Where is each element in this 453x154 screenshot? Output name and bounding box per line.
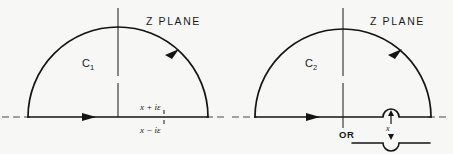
contour-subscript-c1: 1 bbox=[90, 63, 94, 72]
pole-label-lower: x − iε bbox=[139, 125, 161, 135]
figure-canvas: Z PLANE C 1 x + iε x − iε bbox=[0, 0, 453, 154]
epsilon-arrow-down bbox=[388, 134, 394, 140]
contour-integral-figure: Z PLANE C 1 x + iε x − iε bbox=[0, 0, 453, 154]
contour-c1-arc-arrowhead bbox=[165, 49, 179, 59]
contour-c1-axis-arrowhead bbox=[82, 113, 96, 121]
panel-left: Z PLANE C 1 x + iε x − iε bbox=[2, 8, 224, 135]
panel-right: Z PLANE C 2 OR x bbox=[232, 8, 450, 151]
epsilon-arrow-up bbox=[388, 110, 394, 116]
contour-subscript-c2: 2 bbox=[313, 63, 317, 72]
plane-label-left: Z PLANE bbox=[146, 15, 201, 27]
contour-c2-axis-arrowhead bbox=[306, 113, 320, 121]
pole-label-x: x bbox=[385, 124, 390, 133]
or-label: OR bbox=[339, 129, 354, 140]
contour-label-c2: C bbox=[305, 57, 313, 69]
contour-label-c1: C bbox=[82, 57, 90, 69]
pole-label-upper: x + iε bbox=[139, 102, 161, 112]
contour-c2-arc-arrowhead bbox=[388, 49, 402, 59]
plane-label-right: Z PLANE bbox=[370, 15, 425, 27]
alternate-contour-indented-below bbox=[352, 143, 430, 151]
